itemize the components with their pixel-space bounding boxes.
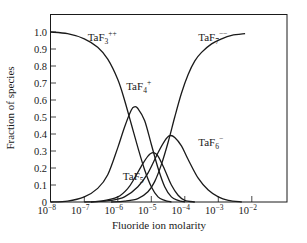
y-tick-label: 0.5 [34, 112, 47, 123]
x-tick-label: 10−6 [105, 203, 124, 216]
y-tick-label: 0.9 [34, 44, 47, 55]
y-tick-label: 0.2 [34, 163, 47, 174]
y-axis: 00.10.20.30.40.50.60.70.80.91.0 [34, 27, 56, 208]
y-tick-label: 0.6 [34, 95, 47, 106]
curve-taf6- [91, 135, 242, 202]
series-label: TaF5 [123, 170, 144, 185]
y-axis-label: Fraction of species [4, 66, 16, 149]
y-tick-label: 0.1 [34, 180, 47, 191]
series-labels: TaF3++TaF4+TaF5TaF6−TaF7−− [88, 29, 228, 185]
y-tick-label: 0.8 [34, 61, 47, 72]
series-curves [51, 32, 245, 202]
x-tick-label: 10−2 [239, 203, 258, 216]
x-tick-label: 10−7 [71, 203, 90, 216]
curve-taf3- [51, 32, 172, 202]
x-tick-label: 10−5 [138, 203, 157, 216]
x-tick-label: 10−3 [205, 203, 224, 216]
y-tick-label: 0.4 [34, 129, 48, 140]
x-axis-label: Fluoride ion molarity [112, 219, 207, 231]
series-label: TaF4+ [126, 78, 151, 95]
x-tick-label: 10−4 [172, 203, 191, 216]
y-tick-label: 1.0 [34, 27, 47, 38]
chart-canvas: 00.10.20.30.40.50.60.70.80.91.0 10−810−7… [0, 0, 307, 243]
series-label: TaF6− [198, 134, 223, 151]
y-tick-label: 0.7 [34, 78, 47, 89]
plot-frame [51, 15, 288, 203]
species-distribution-chart: 00.10.20.30.40.50.60.70.80.91.0 10−810−7… [0, 0, 307, 243]
y-tick-label: 0.3 [34, 146, 47, 157]
x-tick-label: 10−8 [38, 203, 57, 216]
